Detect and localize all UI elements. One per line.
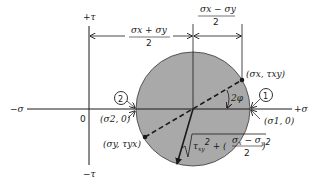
sigma-negative-label: −σ [10, 104, 25, 114]
tau-positive-label: +τ [83, 12, 97, 22]
point-x-face [240, 78, 245, 83]
tau-negative-label: −τ [83, 169, 97, 179]
angle-label: 2φ [230, 93, 244, 103]
principal-1-marker: 1 [251, 89, 273, 120]
principal-2-label: (σ2, 0) [100, 114, 131, 124]
svg-text:σx + σy: σx + σy [131, 25, 168, 35]
svg-text:2: 2 [244, 148, 250, 158]
sigma-positive-label: +σ [294, 104, 309, 114]
origin-label: 0 [80, 114, 86, 124]
point-y-face [143, 135, 148, 140]
svg-text:1: 1 [263, 92, 268, 101]
svg-text:2: 2 [146, 38, 152, 48]
svg-text:2: 2 [118, 95, 123, 104]
half-difference-label: σx − σy 2 [198, 4, 237, 27]
svg-text:2: 2 [213, 17, 219, 27]
y-face-label: (σy, τyx) [103, 139, 141, 149]
svg-text:σx − σy: σx − σy [200, 4, 237, 14]
x-face-label: (σx, τxy) [246, 69, 286, 79]
principal-1-label: (σ1, 0) [264, 116, 295, 126]
mohrs-circle-diagram: σx + σy 2 σx − σy 2 2φ +τ −τ −σ +σ 0 (σx… [0, 0, 312, 186]
